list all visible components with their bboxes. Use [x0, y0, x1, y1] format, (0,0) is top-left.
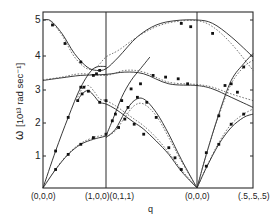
data-point: [127, 106, 130, 109]
data-point: [79, 143, 82, 146]
x-tick-label-555: (.5,.5,.5): [238, 191, 270, 201]
data-point: [217, 114, 220, 117]
y-tick-label-1: 1: [35, 150, 41, 161]
data-point: [123, 118, 126, 121]
branch-acoustic-LA-100-curve: [43, 66, 106, 188]
data-point: [95, 72, 98, 75]
data-point: [164, 76, 167, 79]
data-point: [230, 123, 233, 126]
data-point: [87, 90, 90, 93]
x-tick-label-000-start: (0,0,0): [31, 191, 56, 201]
data-point: [111, 119, 114, 122]
data-point: [167, 146, 170, 149]
x-tick-label-000-mid: (0,0,0): [185, 191, 210, 201]
data-point: [142, 133, 145, 136]
data-point: [186, 82, 189, 85]
data-point: [92, 74, 95, 77]
y-tick-label-5: 5: [35, 14, 41, 25]
phonon-dispersion-chart: 1 2 3 4 5 ω [10¹³ rad sec⁻¹] (0,0,0) (1,…: [0, 0, 280, 218]
y-axis-omega: ω: [12, 131, 26, 140]
data-point: [139, 82, 142, 85]
data-point: [211, 32, 214, 35]
branch-optic-flat-alt-curve: [43, 70, 253, 100]
data-point: [67, 153, 70, 156]
data-point: [236, 91, 239, 94]
x-tick-label-100-011: (1,0,0)(0,1,1): [85, 191, 134, 201]
data-point: [217, 143, 220, 146]
data-point: [136, 96, 139, 99]
data-point: [174, 156, 177, 159]
data-point: [98, 101, 101, 104]
data-point: [189, 25, 192, 28]
data-point: [98, 69, 101, 72]
branch-acoustic-TA-100-curve: [43, 136, 106, 188]
y-axis-label: ω [10¹³ rad sec⁻¹]: [12, 63, 26, 140]
branch-111-TA-curve: [197, 114, 253, 188]
data-point: [145, 101, 148, 104]
data-point: [242, 113, 245, 116]
data-point: [81, 93, 84, 96]
data-point: [54, 168, 57, 171]
data-point: [224, 84, 227, 87]
data-point: [130, 88, 133, 91]
data-point: [51, 24, 54, 27]
branch-111-LA-curve: [197, 54, 253, 188]
data-point: [79, 61, 82, 64]
data-point: [152, 74, 155, 77]
y-ticks: [43, 20, 253, 156]
data-point: [79, 86, 82, 89]
data-point: [114, 113, 117, 116]
data-point: [155, 116, 158, 119]
data-point: [64, 42, 67, 45]
data-point: [230, 82, 233, 85]
data-point: [120, 99, 123, 102]
branch-111-TA-alt-curve: [197, 109, 253, 188]
plot-frame: [43, 12, 253, 188]
branch-011-rise-alt-curve: [106, 103, 197, 188]
data-point: [177, 77, 180, 80]
data-point: [133, 123, 136, 126]
data-point: [76, 99, 79, 102]
data-point: [180, 22, 183, 25]
y-tick-label-2: 2: [35, 117, 41, 128]
data-point: [67, 116, 70, 119]
branch-optic-top-alt-curve: [43, 20, 253, 71]
branch-011-steep-curve: [106, 57, 150, 136]
data-point: [180, 168, 183, 171]
dispersion-curves: [43, 19, 253, 188]
data-point: [242, 66, 245, 69]
branch-mid-hump-curve: [78, 91, 197, 188]
branch-optic-top-curve: [43, 19, 253, 70]
x-axis-label: q: [148, 204, 153, 214]
data-point: [92, 136, 95, 139]
data-point: [117, 126, 120, 129]
y-axis-unit: [10¹³ rad sec⁻¹]: [14, 63, 25, 127]
y-tick-label-4: 4: [35, 50, 41, 61]
data-point: [83, 86, 86, 89]
data-point: [205, 165, 208, 168]
branch-acoustic-TA-100-alt-curve: [43, 136, 106, 188]
y-tick-label-3: 3: [35, 84, 41, 95]
data-point: [54, 150, 57, 153]
data-point: [205, 151, 208, 154]
